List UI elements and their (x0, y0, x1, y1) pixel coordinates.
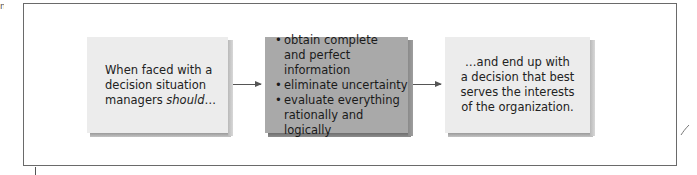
text-line: obtain complete (284, 33, 408, 48)
bullet-item: • evaluate everything rationally and log… (275, 93, 408, 138)
bullet-icon: • (275, 93, 282, 108)
text-line: eliminate uncertainty (284, 78, 408, 93)
text-line: managers should… (105, 93, 228, 108)
cropped-text-fragment: n (0, 2, 4, 11)
bullet-icon: • (275, 33, 282, 48)
text-line: decision situation (105, 78, 228, 93)
text-line: serves the interests (445, 85, 590, 100)
text-line: rationally and logically (284, 108, 408, 138)
arrowhead-icon (435, 81, 442, 87)
process-bullet-list: • obtain complete and perfect informatio… (265, 33, 408, 138)
text-line: a decision that best (445, 70, 590, 85)
bullet-icon: • (275, 78, 282, 93)
text-line: and perfect information (284, 48, 408, 78)
bullet-item: • eliminate uncertainty (275, 78, 408, 93)
frame-tick-mark (35, 167, 36, 175)
box-decision-situation: When faced with a decision situation man… (87, 37, 228, 133)
bullet-item: • obtain complete and perfect informatio… (275, 33, 408, 78)
stray-pen-mark-icon (680, 124, 690, 136)
text-line: evaluate everything (284, 93, 408, 108)
arrow-process-to-outcome (413, 84, 441, 85)
ellipsis: … (204, 93, 216, 107)
text-line: of the organization. (445, 100, 590, 115)
text-line: …and end up with (445, 55, 590, 70)
text-line: When faced with a (105, 63, 228, 78)
text-fragment: managers (105, 93, 166, 107)
box-rational-process: • obtain complete and perfect informatio… (265, 37, 408, 133)
emphasis-should: should (166, 93, 204, 107)
box-outcome-text: …and end up with a decision that best se… (445, 55, 590, 115)
box-outcome: …and end up with a decision that best se… (445, 37, 590, 133)
box-decision-situation-text: When faced with a decision situation man… (87, 63, 228, 108)
arrow-start-to-process (233, 84, 261, 85)
arrowhead-icon (255, 81, 262, 87)
